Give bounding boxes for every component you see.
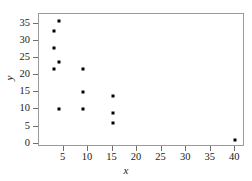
data-point	[52, 47, 55, 50]
x-axis-tick-label: 30	[173, 152, 197, 163]
data-point	[52, 30, 55, 33]
x-axis-tick-label: 40	[222, 152, 246, 163]
data-point	[57, 108, 60, 111]
scatter-plot-figure: 05101520253035 510152025303540 x y	[0, 0, 252, 181]
y-axis-tick	[33, 23, 38, 24]
y-axis-tick-label: 25	[8, 52, 30, 63]
y-axis-tick	[33, 143, 38, 144]
x-axis-tick-label: 15	[100, 152, 124, 163]
y-axis-tick	[33, 74, 38, 75]
y-axis-tick-label: 10	[8, 103, 30, 114]
y-axis-label: y	[3, 63, 15, 93]
data-point	[82, 91, 85, 94]
data-point	[52, 67, 55, 70]
x-axis-tick-label: 35	[198, 152, 222, 163]
y-axis-tick-label: 5	[8, 121, 30, 132]
y-axis-tick	[33, 91, 38, 92]
x-axis-tick-label: 10	[75, 152, 99, 163]
data-point	[82, 108, 85, 111]
x-axis-tick-label: 20	[124, 152, 148, 163]
y-axis-tick	[33, 57, 38, 58]
x-axis-tick-label: 5	[51, 152, 75, 163]
x-axis-tick-label: 25	[149, 152, 173, 163]
y-axis-tick-label: 0	[8, 138, 30, 149]
data-point	[57, 19, 60, 22]
data-point	[57, 60, 60, 63]
y-axis-tick	[33, 40, 38, 41]
y-axis-tick-label: 35	[8, 18, 30, 29]
x-axis-label: x	[0, 164, 252, 176]
data-point	[82, 67, 85, 70]
y-axis-tick	[33, 126, 38, 127]
plot-area-frame	[38, 13, 244, 146]
y-axis-tick	[33, 108, 38, 109]
y-axis-tick-label: 30	[8, 35, 30, 46]
data-point	[111, 111, 114, 114]
data-point	[111, 122, 114, 125]
data-point	[234, 139, 237, 142]
data-point	[111, 94, 114, 97]
